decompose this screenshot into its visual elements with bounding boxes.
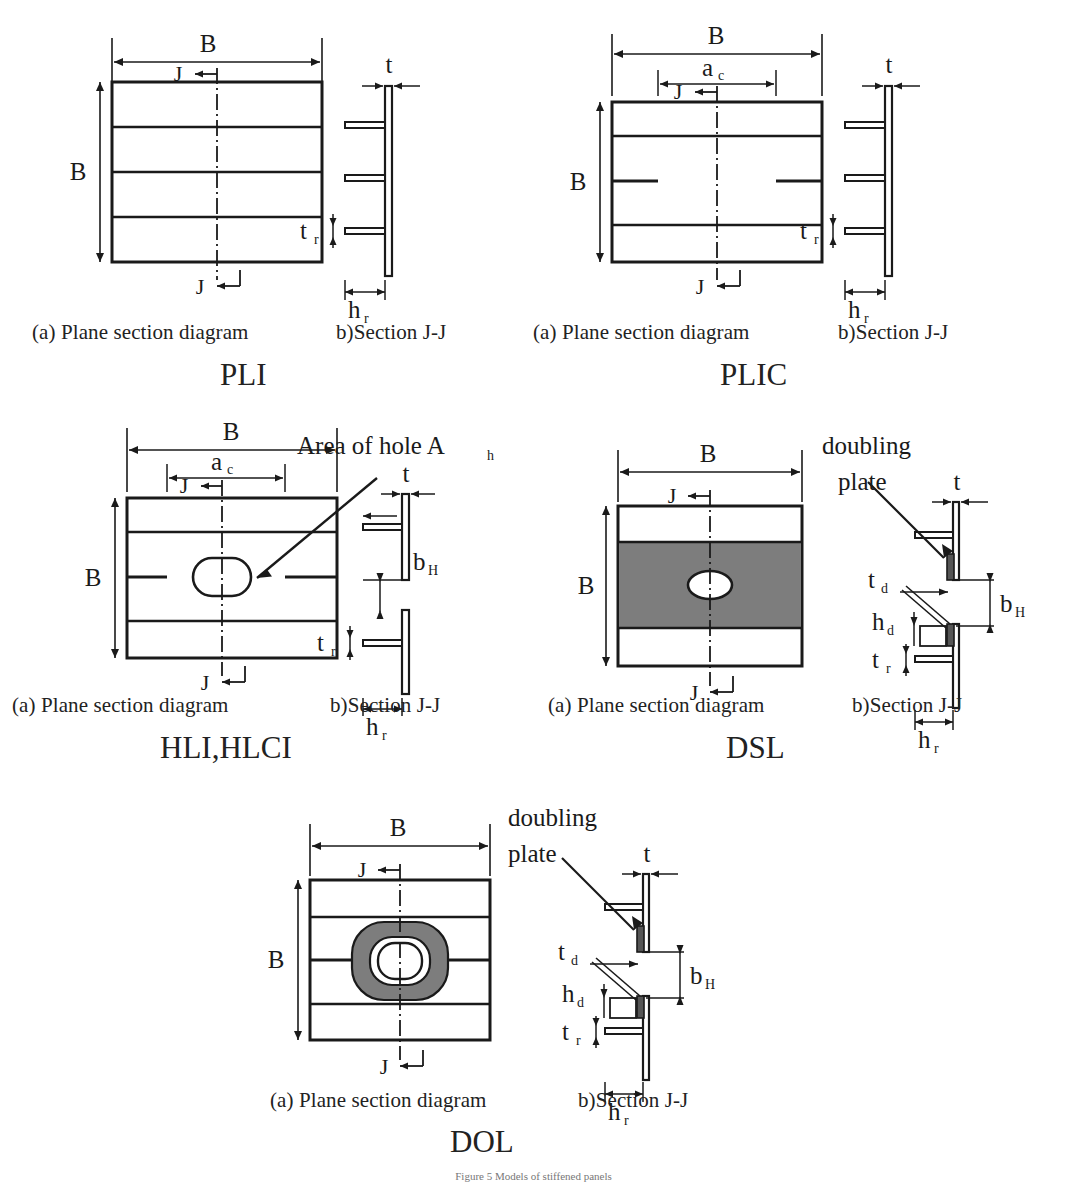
svg-text:a: a xyxy=(702,54,713,81)
dsl-plan-caption: (a) Plane section diagram xyxy=(548,693,765,718)
pli-model-label: PLI xyxy=(220,357,267,393)
dol-plan-caption: (a) Plane section diagram xyxy=(270,1088,487,1113)
figure-canvas: B B J J xyxy=(0,0,1067,1182)
pli-section-caption: b)Section J-J xyxy=(336,320,446,345)
label-tr: t r xyxy=(800,217,819,247)
label-td: t d xyxy=(868,566,888,596)
label-B-top: B xyxy=(223,418,240,445)
label-tr: t r xyxy=(562,1018,581,1048)
annotation-doubling-plate: doubling plate xyxy=(822,432,911,495)
svg-text:H: H xyxy=(428,563,438,578)
panel-dol: B B J J doubling plate xyxy=(290,812,720,1092)
svg-text:doubling: doubling xyxy=(508,804,597,831)
label-J-top: J xyxy=(674,79,683,104)
svg-text:r: r xyxy=(624,1113,629,1128)
label-J-bottom: J xyxy=(696,274,705,299)
label-B-top: B xyxy=(708,22,725,49)
pli-plan-caption: (a) Plane section diagram xyxy=(32,320,249,345)
doubling-plate-lower xyxy=(637,996,644,1018)
label-t: t xyxy=(954,468,961,495)
svg-text:Area of hole A: Area of hole A xyxy=(297,432,445,459)
panel-dsl: B B J J doubling plate xyxy=(600,440,1030,720)
dsl-model-label: DSL xyxy=(726,730,785,766)
svg-text:h: h xyxy=(562,980,575,1007)
svg-text:d: d xyxy=(577,995,584,1010)
svg-text:plate: plate xyxy=(508,840,557,867)
svg-text:t: t xyxy=(558,938,565,965)
label-bH: b H xyxy=(1000,590,1025,620)
label-bH: b H xyxy=(413,548,438,578)
svg-text:a: a xyxy=(211,448,222,475)
dol-section-caption: b)Section J-J xyxy=(578,1088,688,1113)
plic-plan-caption: (a) Plane section diagram xyxy=(533,320,750,345)
label-J-bottom: J xyxy=(201,670,210,695)
annotation-area-of-hole: Area of hole A h xyxy=(297,432,494,463)
label-tr: t r xyxy=(300,217,319,247)
doubling-plate-upper xyxy=(947,554,954,580)
svg-text:b: b xyxy=(690,962,703,989)
label-t: t xyxy=(886,51,893,78)
label-t: t xyxy=(403,460,410,487)
svg-text:t: t xyxy=(800,217,807,244)
svg-text:d: d xyxy=(571,953,578,968)
label-bH: b H xyxy=(690,962,715,992)
svg-text:b: b xyxy=(413,548,426,575)
label-B-side: B xyxy=(85,564,102,591)
svg-text:c: c xyxy=(227,462,233,477)
label-J-top: J xyxy=(358,857,367,882)
svg-text:plate: plate xyxy=(838,468,887,495)
label-B-top: B xyxy=(390,814,407,841)
label-td: t d xyxy=(558,938,578,968)
annotation-doubling-plate: doubling plate xyxy=(508,804,597,867)
label-tr: t r xyxy=(317,629,336,659)
plic-model-label: PLIC xyxy=(720,357,787,393)
svg-text:H: H xyxy=(1015,605,1025,620)
label-J-top: J xyxy=(174,61,183,86)
svg-text:t: t xyxy=(872,646,879,673)
svg-text:r: r xyxy=(886,661,891,676)
pli-drawing: B B J J xyxy=(90,18,510,318)
svg-text:h: h xyxy=(918,726,931,753)
label-tr: t r xyxy=(872,646,891,676)
svg-text:c: c xyxy=(718,68,724,83)
dsl-drawing: B B J J doubling plate xyxy=(600,440,1030,720)
svg-text:r: r xyxy=(814,232,819,247)
hli-drawing: B a c B J J Area of hole A h xyxy=(105,420,535,710)
hli-model-label: HLI,HLCI xyxy=(160,730,292,766)
label-J-bottom: J xyxy=(196,274,205,299)
label-B-side: B xyxy=(570,168,587,195)
label-B-side: B xyxy=(578,572,595,599)
svg-text:r: r xyxy=(331,644,336,659)
svg-text:doubling: doubling xyxy=(822,432,911,459)
svg-text:t: t xyxy=(562,1018,569,1045)
svg-text:b: b xyxy=(1000,590,1013,617)
svg-text:h: h xyxy=(348,296,361,323)
label-ac: a c xyxy=(702,54,724,83)
label-hd: h d xyxy=(562,980,584,1010)
svg-text:h: h xyxy=(848,296,861,323)
svg-text:r: r xyxy=(934,741,939,756)
label-J-top: J xyxy=(668,483,677,508)
svg-text:H: H xyxy=(705,977,715,992)
label-B-top: B xyxy=(200,30,217,57)
dol-drawing: B B J J doubling plate xyxy=(290,812,720,1092)
svg-text:h: h xyxy=(872,608,885,635)
label-B-side: B xyxy=(70,158,87,185)
figure-caption: Figure 5 Models of stiffened panels xyxy=(455,1170,612,1182)
svg-text:d: d xyxy=(881,581,888,596)
hli-section-caption: b)Section J-J xyxy=(330,693,440,718)
label-hr: h r xyxy=(918,726,939,756)
dol-model-label: DOL xyxy=(450,1124,514,1160)
doubling-plate-upper xyxy=(637,926,644,952)
panel-pli: B B J J xyxy=(90,18,510,318)
label-J-bottom: J xyxy=(380,1054,389,1079)
label-ac: a c xyxy=(211,448,233,477)
svg-text:r: r xyxy=(382,728,387,743)
doubling-plate-lower xyxy=(947,624,954,646)
label-J-top: J xyxy=(180,473,189,498)
svg-text:t: t xyxy=(868,566,875,593)
panel-hli-hlci: B a c B J J Area of hole A h xyxy=(105,420,535,710)
panel-plic: B a c B J J xyxy=(590,18,1010,318)
plic-section-caption: b)Section J-J xyxy=(838,320,948,345)
plic-drawing: B a c B J J xyxy=(590,18,1010,318)
